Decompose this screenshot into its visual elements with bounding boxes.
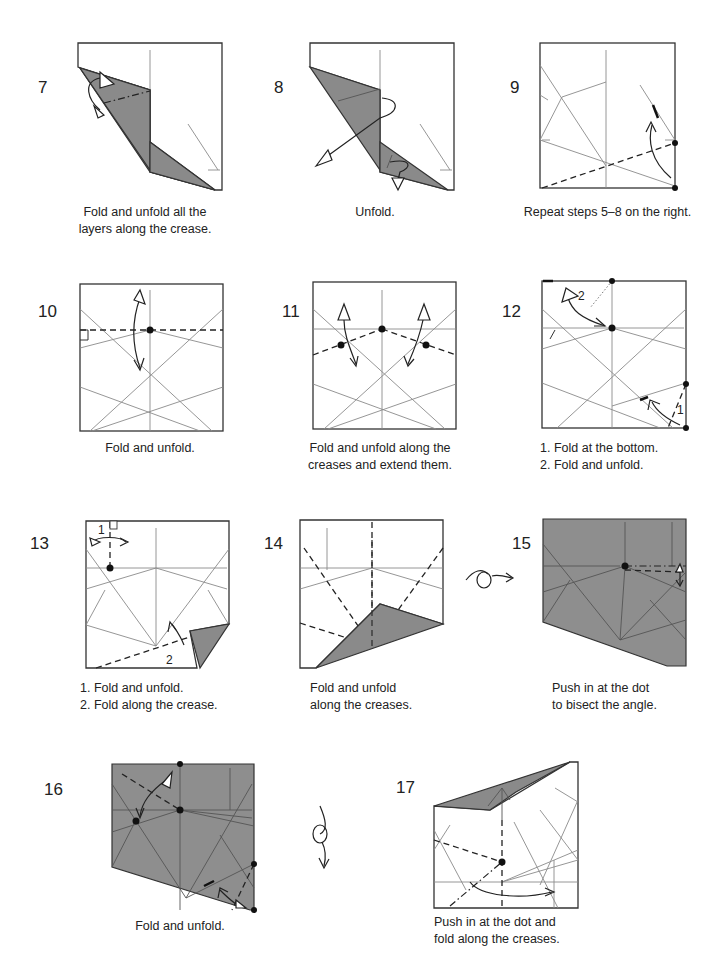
- step-caption: 1. Fold at the bottom. 2. Fold and unfol…: [520, 440, 720, 474]
- step-caption: Fold and unfold all the layers along the…: [70, 204, 220, 238]
- step-17: 17 Push in at the dot and fold along the…: [390, 740, 724, 979]
- step-caption: Push in at the dot to bisect the angle.: [540, 680, 712, 714]
- step-caption: Fold and unfold along the creases.: [310, 680, 450, 714]
- step-8: 8 Unfold.: [240, 0, 480, 240]
- rotate-icon: [300, 800, 340, 880]
- step-caption: Push in at the dot and fold along the cr…: [434, 914, 604, 948]
- step-16-diagram: [0, 740, 290, 979]
- step-11: 11 Fold and unfold along the creases and…: [240, 260, 480, 490]
- step-caption: Unfold.: [300, 204, 450, 221]
- step-15: 15 Push in at the dot to bisect the angl…: [480, 500, 724, 730]
- step-12: 12 2 1 1. Fold at the bottom. 2. Fold an…: [480, 260, 724, 490]
- step-caption: Fold and unfold along the creases and ex…: [290, 440, 470, 474]
- step-16: 16 Fold and unfold.: [0, 740, 290, 979]
- step-13: 13 1 2 1. Fold and unfold. 2. Fold along…: [0, 500, 240, 730]
- step-caption: Fold and unfold.: [100, 918, 260, 935]
- label-1: 1: [677, 403, 684, 417]
- step-14: 14 Fold and unfold along the creases.: [240, 500, 470, 730]
- step-10: 10 Fold and unfold.: [0, 260, 240, 490]
- label-2: 2: [578, 289, 585, 303]
- label-2: 2: [166, 653, 173, 667]
- step-caption: 1. Fold and unfold. 2. Fold along the cr…: [80, 680, 240, 714]
- label-1: 1: [98, 523, 105, 537]
- step-9: 9 Repeat steps 5–8 on the right.: [480, 0, 724, 240]
- step-7: 7 Fold and unfold all the layers along t…: [0, 0, 240, 240]
- step-caption: Fold and unfold.: [70, 440, 230, 457]
- step-caption: Repeat steps 5–8 on the right.: [500, 204, 715, 221]
